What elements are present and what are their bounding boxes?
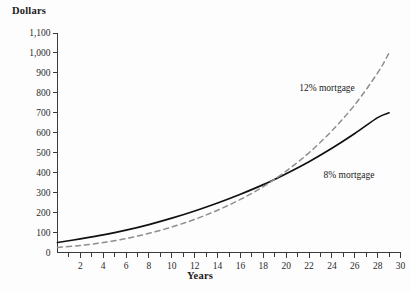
series-group [58,53,390,248]
series-line-8-percent [58,113,390,243]
series-line-12-percent [58,53,390,248]
chart-figure: Dollars Years 01002003004005006007008009… [0,0,411,292]
plot-area [0,0,411,292]
axes-group [53,33,401,258]
